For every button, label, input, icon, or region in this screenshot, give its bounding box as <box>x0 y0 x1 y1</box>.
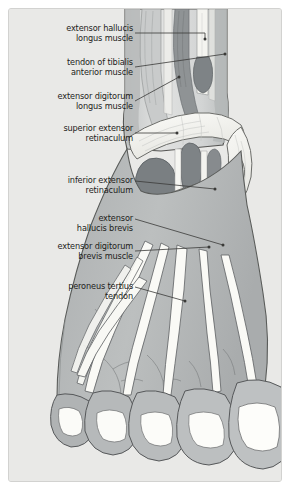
label-inferior-extensor-retinaculum: inferior extensor retinaculum <box>21 175 133 196</box>
illustration-frame: extensor hallucis longus muscletendon of… <box>8 8 282 482</box>
label-extensor-digitorum-longus-muscle: extensor digitorum longus muscle <box>21 91 133 112</box>
label-tendon-of-tibialis-anterior-muscle: tendon of tibialis anterior muscle <box>21 57 133 78</box>
label-group: extensor hallucis longus muscletendon of… <box>9 9 282 482</box>
label-peroneus-tertius-tendon: peroneus tertius tendon <box>21 281 133 302</box>
label-extensor-hallucis-longus-muscle: extensor hallucis longus muscle <box>21 23 133 44</box>
label-superior-extensor-retinaculum: superior extensor retinaculum <box>21 123 133 144</box>
label-extensor-hallucis-brevis: extensor hallucis brevis <box>21 213 133 234</box>
label-extensor-digitorum-brevis-muscle: extensor digitorum brevis muscle <box>21 241 133 262</box>
